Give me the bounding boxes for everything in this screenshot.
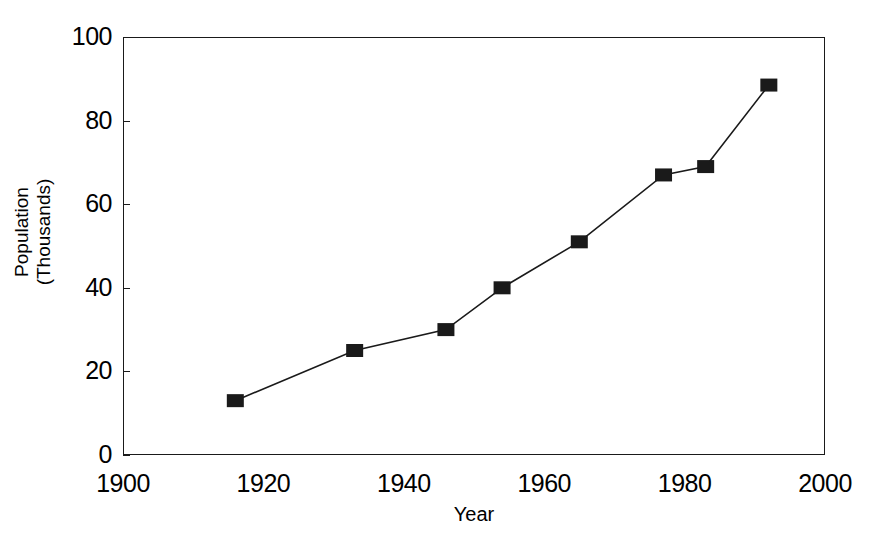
y-tick-label: 40 xyxy=(12,275,112,300)
y-tick-label: 100 xyxy=(12,24,112,49)
data-point-marker xyxy=(346,344,363,357)
data-point-marker xyxy=(760,79,777,92)
x-tick-label: 1940 xyxy=(344,470,464,496)
y-tick-mark xyxy=(123,371,130,372)
y-tick-mark xyxy=(123,455,130,456)
data-point-marker xyxy=(437,323,454,336)
x-tick-label: 1900 xyxy=(63,470,183,496)
population-line-chart: Population (Thousands) 020406080100 1900… xyxy=(0,0,870,542)
data-point-marker xyxy=(697,160,714,173)
y-tick-label: 0 xyxy=(12,442,112,467)
data-point-marker xyxy=(571,235,588,248)
x-axis-title: Year xyxy=(123,503,825,525)
y-tick-mark xyxy=(123,121,130,122)
plot-data-layer xyxy=(123,37,825,455)
data-line xyxy=(235,85,769,401)
data-point-marker xyxy=(227,394,244,407)
x-tick-label: 1980 xyxy=(625,470,745,496)
x-tick-label: 1960 xyxy=(484,470,604,496)
y-tick-label: 80 xyxy=(12,108,112,133)
y-axis-tick-labels: 020406080100 xyxy=(0,0,112,542)
x-tick-label: 1920 xyxy=(203,470,323,496)
x-tick-label: 2000 xyxy=(765,470,870,496)
y-tick-mark xyxy=(123,37,130,38)
data-point-marker xyxy=(655,168,672,181)
data-point-marker xyxy=(494,281,511,294)
data-markers xyxy=(227,79,778,408)
y-tick-label: 20 xyxy=(12,358,112,383)
y-tick-mark xyxy=(123,288,130,289)
y-tick-label: 60 xyxy=(12,191,112,216)
y-tick-mark xyxy=(123,204,130,205)
